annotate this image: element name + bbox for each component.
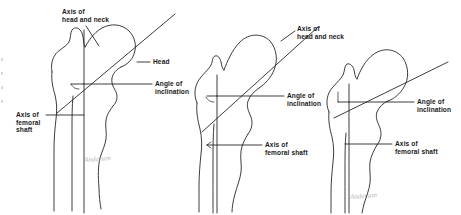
middle-femur-outline	[195, 35, 276, 213]
left-label-axis-head-neck: Axis of head and neck	[62, 8, 109, 23]
middle-label-axis-head-neck: Axis of head and neck	[297, 25, 344, 40]
middle-neck-axis-line	[202, 27, 318, 132]
left-label-angle-of-inclination: Angle of inclination	[155, 80, 189, 95]
femur-diagram-svg	[0, 0, 461, 215]
right-femur-outline	[327, 50, 408, 213]
left-label-head: Head	[153, 58, 170, 66]
right-label-angle-of-inclination: Angle of inclination	[417, 98, 451, 113]
middle-leader-axis-head-neck	[281, 31, 295, 41]
middle-label-axis-femoral-shaft: Axis of femoral shaft	[265, 141, 308, 156]
page-edge-artifact	[1, 72, 3, 75]
figure-canvas: Axis of head and neck Head Angle of incl…	[0, 0, 461, 215]
page-edge-artifact	[1, 86, 3, 89]
right-label-axis-femoral-shaft: Axis of femoral shaft	[395, 140, 438, 155]
middle-label-angle-of-inclination: Angle of inclination	[287, 92, 321, 107]
page-edge-artifact	[1, 58, 3, 61]
page-edge-artifact	[1, 100, 3, 103]
left-label-axis-femoral-shaft: Axis of femoral shaft	[16, 111, 41, 134]
left-femur-outline	[51, 25, 135, 211]
